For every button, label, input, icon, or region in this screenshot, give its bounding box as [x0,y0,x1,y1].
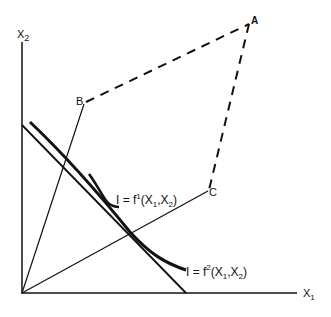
dashed-segment-b-a [86,24,249,102]
y-axis-label: X2 [17,28,29,43]
point-b-label: B [76,95,83,107]
dashed-segment-a-c [209,24,249,190]
point-c-label: C [209,186,217,198]
diagram-canvas: X2 X1 A B C I = f1(X1,X2) I = f2(X1,X2) [0,0,331,317]
straight-tangent-line [22,125,186,293]
isoquant-f2-label: I = f2(X1,X2) [186,263,247,281]
x-axis-label: X1 [303,287,315,302]
point-a-label: A [251,15,258,26]
isoquant-f1-label: I = f1(X1,X2) [116,192,177,209]
